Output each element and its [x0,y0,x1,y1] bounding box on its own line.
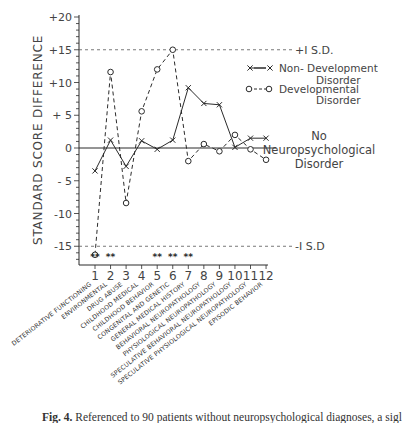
legend: Non- DevelopmentalDisorderDevelopmentalD… [246,62,378,106]
circle-marker-icon [139,109,145,115]
circle-marker-icon [201,141,207,147]
y-tick-label: + 5 [52,109,72,122]
x-tick-label: 9 [216,269,224,283]
x-tick-label: 11 [243,269,258,283]
x-tick-label: 7 [184,269,192,283]
circle-marker-icon [232,132,238,138]
circle-marker-icon [186,158,192,164]
circle-marker-icon [266,86,272,92]
y-tick-label: 0 [65,142,72,155]
circle-marker-icon [248,147,254,153]
no-disorder-label: Disorder [295,157,344,171]
y-tick-label: -15 [54,240,72,253]
y-tick-label: +20 [49,11,72,24]
x-tick-label: 8 [200,269,208,283]
circle-marker-icon [217,148,223,154]
x-tick-label: 5 [153,269,161,283]
x-marker-icon [108,138,113,143]
category-label: DETERIORATIVE FUNCTIONING [10,280,93,347]
significance-marker: ** [184,252,194,262]
circle-marker-icon [246,86,252,92]
circle-marker-icon [108,69,114,75]
circle-marker-icon [263,157,269,163]
legend-label-developmental-2: Disorder [316,94,361,106]
x-marker-icon [155,147,160,152]
y-tick-label: - 5 [58,175,72,188]
significance-marker: ** [168,252,178,262]
circle-marker-icon [154,67,160,73]
legend-label-non-developmental: Non- Developmental [279,62,378,74]
data-series [92,47,269,258]
y-tick-label: +10 [49,77,72,90]
circle-marker-icon [170,47,176,53]
no-disorder-label: Neuropsychological [263,143,376,157]
x-tick-label: 10 [227,269,242,283]
x-tick-label: 12 [258,269,273,283]
x-marker-icon [139,138,144,143]
x-tick-label: 3 [122,269,130,283]
y-axis-title: STANDARD SCORE DIFFERENCE [31,35,45,245]
series-non-developmental [92,85,268,173]
sd-label: +I S.D. [295,44,333,57]
sd-label: -I S.D [295,240,325,253]
axes: +20+15+10+ 50- 5-10-15123456789101112DET… [10,11,274,385]
circle-marker-icon [123,200,129,206]
x-marker-icon [186,85,191,90]
significance-marker: ** [106,252,116,262]
figure-caption: Fig. 4. Referenced to 90 patients withou… [42,411,402,423]
x-marker-icon [267,65,272,70]
y-tick-label: +15 [49,44,72,57]
caption-text: Referenced to 90 patients without neurop… [75,411,402,423]
x-tick-label: 2 [107,269,115,283]
x-tick-label: 4 [138,269,146,283]
caption-prefix: Fig. 4. [42,411,72,423]
significance-marker: ** [90,252,100,262]
significance-marker: ** [152,252,162,262]
no-disorder-label: No [311,129,327,143]
x-tick-label: 1 [91,269,99,283]
x-marker-icon [92,168,97,173]
x-marker-icon [232,145,237,150]
y-tick-label: -10 [54,208,72,221]
x-tick-label: 6 [169,269,177,283]
series-developmental [92,47,269,258]
x-marker-icon [124,164,129,169]
x-marker-icon [170,138,175,143]
